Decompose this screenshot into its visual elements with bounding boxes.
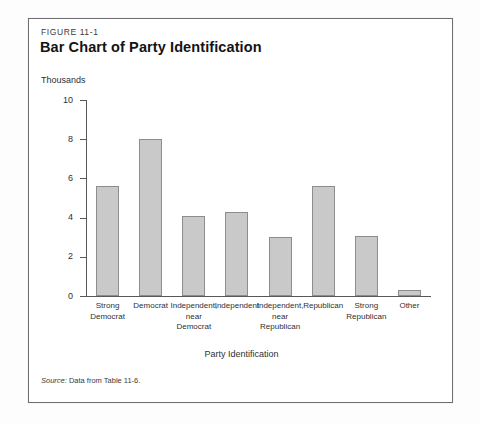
y-axis-tick-label: 0 [43,292,73,301]
figure-box: FIGURE 11-1 Bar Chart of Party Identific… [28,18,453,403]
plot-area: 0246810 StrongDemocratDemocratIndependen… [29,19,454,404]
y-axis-tick [80,296,86,297]
y-axis-tick [80,178,86,179]
y-axis-tick [80,139,86,140]
y-axis-tick-label: 8 [43,135,73,144]
bar [355,236,378,296]
bar [182,216,205,296]
scanned-page: FIGURE 11-1 Bar Chart of Party Identific… [0,0,480,424]
source-text: Data from Table 11-6. [67,376,141,385]
y-axis-tick-label: 4 [43,213,73,222]
x-axis-category-label-line: Democrat [81,312,134,323]
x-axis-line [86,296,431,297]
bar [96,186,119,296]
y-axis-tick-label: 2 [43,252,73,261]
source-label: Source: [41,376,67,385]
bar [312,186,335,296]
x-axis-category-label: Other [383,301,436,312]
bar [139,139,162,296]
y-axis-tick-label: 10 [43,96,73,105]
x-axis-category-label-line: Republican [340,312,393,323]
y-axis-line [86,100,87,296]
y-axis-tick [80,218,86,219]
x-axis-category-label-line: near [254,312,307,323]
y-axis-tick-label: 6 [43,174,73,183]
x-axis-title: Party Identification [29,349,454,359]
x-axis-category-label-line: Democrat [167,322,220,333]
x-axis-category-label-line: near [167,312,220,323]
bar [225,212,248,296]
x-axis-category-label-line: Other [383,301,436,312]
bar [269,237,292,296]
bar [398,290,421,296]
x-axis-category-label-line: Republican [254,322,307,333]
y-axis-tick [80,257,86,258]
y-axis-tick [80,100,86,101]
source-note: Source: Data from Table 11-6. [41,376,140,385]
